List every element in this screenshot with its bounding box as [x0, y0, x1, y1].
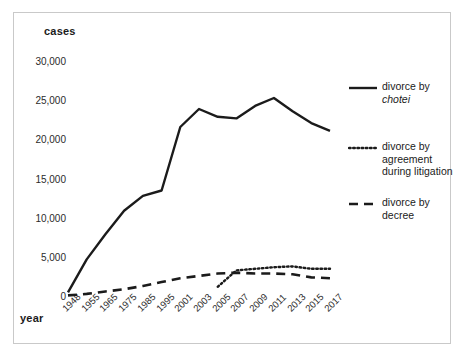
series-line-dashed	[68, 273, 330, 296]
legend-label-line1: divorce by	[382, 196, 430, 209]
legend-label-line1: divorce by	[382, 140, 458, 153]
legend-label-line2: decree	[382, 209, 430, 222]
series-line-solid	[68, 98, 330, 292]
legend-label: divorce byagreement during litigation	[382, 140, 458, 178]
legend-item-divorce-by-decree[interactable]: divorce bydecree	[348, 196, 430, 221]
legend-label-line2: chotei	[382, 93, 430, 106]
legend-label-line2: agreement during litigation	[382, 153, 458, 178]
legend-swatch-dashed-icon	[348, 196, 378, 208]
legend-item-divorce-by-chotei[interactable]: divorce bychotei	[348, 80, 430, 105]
chart-figure: cases year 05,00010,00015,00020,00025,00…	[0, 0, 465, 361]
plot-area	[0, 0, 465, 361]
legend-label: divorce bychotei	[382, 80, 430, 105]
legend-swatch-dotted-icon	[348, 140, 378, 152]
legend-label-line1: divorce by	[382, 80, 430, 93]
legend-swatch-solid-icon	[348, 80, 378, 92]
legend-item-divorce-by-agreement-during-litigation[interactable]: divorce byagreement during litigation	[348, 140, 458, 178]
legend-label: divorce bydecree	[382, 196, 430, 221]
